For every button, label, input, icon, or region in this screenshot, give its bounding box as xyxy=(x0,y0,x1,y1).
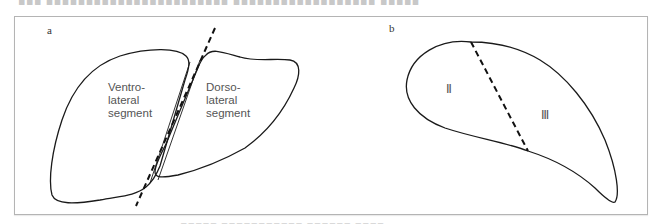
fissure-line xyxy=(158,60,200,180)
segment-label-line: Ventro- xyxy=(108,81,152,94)
teardrop-lobe-outline xyxy=(406,41,617,202)
panel-label-a: a xyxy=(47,24,52,36)
segment-label-line: segment xyxy=(108,107,152,120)
segment-label-line: lateral xyxy=(108,94,152,107)
segment-label-line: Dorso- xyxy=(206,81,250,94)
dorsolateral-segment-label: Dorso- lateral segment xyxy=(206,81,250,120)
figure-diagram xyxy=(0,0,658,224)
segment-label-line: segment xyxy=(206,107,250,120)
segment-iii-label: Ⅲ xyxy=(541,108,549,123)
figure-caption-cutoff: ▪▪▪▪▪ ▪▪▪▪▪▪▪▪▪▪▪ ▪▪▪▪▪▪ ▪▪▪▪ xyxy=(180,219,384,224)
segment-ii-label: Ⅱ xyxy=(446,82,452,97)
dividing-dashed-line-b xyxy=(471,42,528,151)
segment-label-line: lateral xyxy=(206,94,250,107)
ventrolateral-segment-label: Ventro- lateral segment xyxy=(108,81,152,120)
ventrolateral-lobe-outline xyxy=(50,50,188,203)
panel-label-b: b xyxy=(389,22,395,34)
fissure-line xyxy=(150,62,190,183)
